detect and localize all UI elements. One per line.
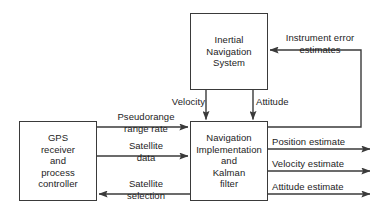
edge-label-velocity: Velocity bbox=[171, 96, 205, 108]
block-navigation-implementation-label: Navigation Implementation and Kalman fil… bbox=[196, 132, 262, 190]
block-navigation-implementation: Navigation Implementation and Kalman fil… bbox=[190, 121, 268, 201]
edge-label-satellite-data: Satellite data bbox=[104, 140, 188, 163]
edge-label-velocity-estimate: Velocity estimate bbox=[272, 158, 372, 170]
block-inertial-navigation-system: Inertial Navigation System bbox=[190, 13, 268, 90]
block-gps-receiver: GPS receiver and process controller bbox=[19, 121, 97, 201]
edge-label-satellite-selection: Satellite selection bbox=[104, 178, 188, 201]
edge-label-pseudorange: Pseudorange range rate bbox=[104, 111, 188, 134]
block-gps-receiver-label: GPS receiver and process controller bbox=[38, 132, 78, 190]
block-inertial-navigation-system-label: Inertial Navigation System bbox=[206, 34, 251, 69]
diagram-canvas: Inertial Navigation System GPS receiver … bbox=[0, 0, 378, 215]
edge-label-position-estimate: Position estimate bbox=[272, 136, 372, 148]
edge-label-attitude: Attitude bbox=[256, 96, 302, 108]
edge-label-attitude-estimate: Attitude estimate bbox=[272, 181, 372, 193]
edge-label-instrument-error: Instrument error estimates bbox=[268, 32, 372, 55]
connector-instrument-error bbox=[268, 50, 361, 127]
